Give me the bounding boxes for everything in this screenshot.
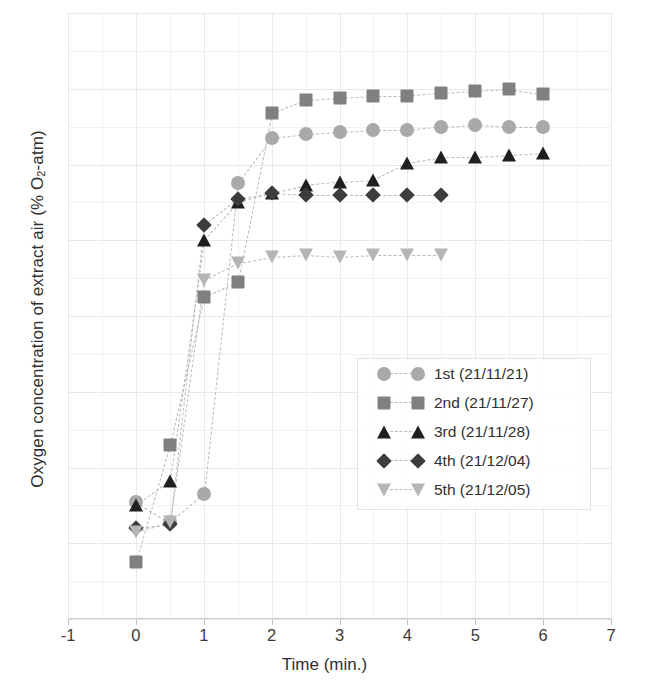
data-point-triangle-down xyxy=(299,249,313,262)
data-point-square xyxy=(435,86,448,99)
legend-item-label: 3rd (21/11/28) xyxy=(434,423,530,441)
gridline-vertical-minor xyxy=(509,13,510,619)
x-axis-tick-label: 2 xyxy=(252,626,292,645)
x-axis-title: Time (min.) xyxy=(0,655,649,675)
data-point-circle xyxy=(231,176,245,190)
y-axis-title: Oxygen concentration of extract air (% O… xyxy=(28,9,48,609)
x-axis-tick-mark xyxy=(68,619,69,625)
data-point-circle xyxy=(333,125,347,139)
legend-item-label: 2nd (21/11/27) xyxy=(434,394,534,412)
data-point-diamond xyxy=(366,187,382,203)
data-point-square xyxy=(163,438,176,451)
data-point-triangle-up xyxy=(333,175,347,188)
x-axis-tick-mark xyxy=(475,619,476,625)
legend-circle-icon xyxy=(377,367,391,381)
chart-root: Oxygen concentration of extract air (% O… xyxy=(0,0,649,688)
gridline-vertical-minor xyxy=(102,13,103,619)
legend-marker-key xyxy=(368,392,434,414)
data-point-triangle-down xyxy=(434,249,448,262)
legend-line-sample xyxy=(390,489,412,490)
x-axis-tick-mark xyxy=(136,619,137,625)
data-point-triangle-up xyxy=(197,234,211,247)
data-point-circle xyxy=(366,123,380,137)
legend-marker-key xyxy=(368,421,434,443)
gridline-vertical xyxy=(611,13,612,619)
gridline-vertical-minor xyxy=(441,13,442,619)
legend-diamond-icon xyxy=(376,453,392,469)
legend-triangle-down-icon xyxy=(377,483,391,496)
legend-item[interactable]: 4th (21/12/04) xyxy=(358,446,590,475)
gridline-vertical-minor xyxy=(238,13,239,619)
legend-marker-key xyxy=(368,363,434,385)
legend-square-icon xyxy=(412,396,425,409)
x-axis-tick-label: -1 xyxy=(48,626,88,645)
data-point-diamond xyxy=(400,187,416,203)
gridline-vertical xyxy=(543,13,544,619)
data-point-square xyxy=(333,92,346,105)
legend-item[interactable]: 2nd (21/11/27) xyxy=(358,388,590,417)
x-axis-tick-mark xyxy=(272,619,273,625)
chart-legend: 1st (21/11/21)2nd (21/11/27)3rd (21/11/2… xyxy=(357,358,591,510)
legend-item-label: 1st (21/11/21) xyxy=(434,365,529,383)
legend-triangle-down-icon xyxy=(411,483,425,496)
gridline-vertical-minor xyxy=(577,13,578,619)
data-point-triangle-up xyxy=(163,474,177,487)
data-point-triangle-down xyxy=(129,525,143,538)
x-axis-tick-label: 0 xyxy=(116,626,156,645)
legend-line-sample xyxy=(390,373,412,374)
gridline-vertical-minor xyxy=(373,13,374,619)
data-point-triangle-up xyxy=(468,150,482,163)
data-point-triangle-down xyxy=(231,256,245,269)
gridline-vertical xyxy=(407,13,408,619)
data-point-diamond xyxy=(332,187,348,203)
data-point-circle xyxy=(468,118,482,132)
gridline-vertical xyxy=(475,13,476,619)
data-point-triangle-up xyxy=(400,156,414,169)
data-point-square xyxy=(367,90,380,103)
data-point-triangle-down xyxy=(163,516,177,529)
data-point-triangle-up xyxy=(502,149,516,162)
legend-marker-key xyxy=(368,450,434,472)
legend-line-sample xyxy=(390,460,412,461)
data-point-triangle-down xyxy=(400,249,414,262)
x-axis-tick-mark xyxy=(611,619,612,625)
data-point-square xyxy=(503,82,516,95)
x-axis-tick-label: 3 xyxy=(320,626,360,645)
series-connector xyxy=(238,138,273,184)
data-point-square xyxy=(129,556,142,569)
x-axis-tick-mark xyxy=(407,619,408,625)
x-axis-tick-label: 1 xyxy=(184,626,224,645)
data-point-square xyxy=(231,275,244,288)
data-point-square xyxy=(401,90,414,103)
legend-item[interactable]: 5th (21/12/05) xyxy=(358,475,590,504)
legend-item[interactable]: 1st (21/11/21) xyxy=(358,359,590,388)
x-axis-tick-label: 7 xyxy=(591,626,631,645)
legend-circle-icon xyxy=(411,367,425,381)
legend-line-sample xyxy=(390,402,412,403)
legend-marker-key xyxy=(368,479,434,501)
legend-item[interactable]: 3rd (21/11/28) xyxy=(358,417,590,446)
x-axis-tick-label: 4 xyxy=(387,626,427,645)
x-axis-tick-label: 6 xyxy=(523,626,563,645)
data-point-diamond xyxy=(434,187,450,203)
data-point-square xyxy=(299,94,312,107)
legend-triangle-up-icon xyxy=(411,425,425,438)
data-point-square xyxy=(197,291,210,304)
x-axis-tick-mark xyxy=(340,619,341,625)
data-point-circle xyxy=(502,120,516,134)
legend-diamond-icon xyxy=(410,453,426,469)
data-point-triangle-up xyxy=(366,173,380,186)
x-axis-tick-mark xyxy=(204,619,205,625)
data-point-triangle-up xyxy=(536,147,550,160)
data-point-triangle-down xyxy=(333,251,347,264)
series-connector xyxy=(204,183,239,494)
data-point-circle xyxy=(265,131,279,145)
legend-line-sample xyxy=(390,431,412,432)
data-point-circle xyxy=(299,127,313,141)
legend-item-label: 4th (21/12/04) xyxy=(434,452,531,470)
legend-square-icon xyxy=(378,396,391,409)
data-point-square xyxy=(469,84,482,97)
data-point-triangle-up xyxy=(434,150,448,163)
legend-triangle-up-icon xyxy=(377,425,391,438)
data-point-triangle-down xyxy=(265,251,279,264)
